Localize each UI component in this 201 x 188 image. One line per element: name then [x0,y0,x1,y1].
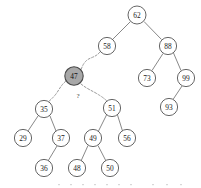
dashed-edge-47-51 [81,84,109,103]
node-circle-35[interactable] [35,100,52,117]
node-circle-29[interactable] [14,129,31,146]
node-36[interactable]: 36 [35,159,52,176]
node-51[interactable]: 51 [103,99,120,116]
node-47-highlighted[interactable]: 47 [65,67,83,85]
edge-88-73 [152,54,163,71]
tree-diagram-page: 62 58 88 73 99 93 [0,0,201,188]
nodes-group: 62 58 88 73 99 93 [14,6,194,177]
node-circle-36[interactable] [35,159,52,176]
node-35[interactable]: 35 [35,100,52,117]
edge-62-58 [113,22,131,40]
binary-search-tree-svg: 62 58 88 73 99 93 [0,0,201,188]
node-circle-50[interactable] [101,159,118,176]
node-circle-56[interactable] [118,129,135,146]
dashed-edge-47-35 [46,81,66,104]
node-circle-93[interactable] [160,98,177,115]
node-circle-99[interactable] [177,69,194,86]
node-58[interactable]: 58 [98,37,115,54]
edge-51-49 [99,115,107,131]
node-49[interactable]: 49 [84,129,101,146]
node-29[interactable]: 29 [14,129,31,146]
node-50[interactable]: 50 [101,159,118,176]
edge-35-37 [50,116,56,131]
node-37[interactable]: 37 [52,129,69,146]
dashed-edge-58-47 [81,52,100,70]
node-56[interactable]: 56 [118,129,135,146]
edge-37-36 [48,146,57,161]
edge-99-93 [173,86,182,100]
node-62[interactable]: 62 [128,6,146,24]
edge-49-48 [81,146,88,162]
page-artifact-specks [58,184,182,185]
node-circle-51[interactable] [103,99,120,116]
node-circle-62[interactable] [128,6,146,24]
edge-35-29 [28,116,38,131]
node-48[interactable]: 48 [68,159,85,176]
edge-51-56 [118,115,123,131]
annotations-group: ? [76,92,79,100]
edge-62-88 [144,22,162,40]
node-99[interactable]: 99 [177,69,194,86]
node-circle-58[interactable] [98,37,115,54]
node-circle-48[interactable] [68,159,85,176]
node-circle-88[interactable] [159,37,176,54]
node-93[interactable]: 93 [160,98,177,115]
edge-49-50 [98,146,106,162]
node-88[interactable]: 88 [159,37,176,54]
node-circle-73[interactable] [138,69,155,86]
node-circle-37[interactable] [52,129,69,146]
question-mark-annotation: ? [76,92,79,100]
node-circle-47[interactable] [65,67,83,85]
node-circle-49[interactable] [84,129,101,146]
edge-88-99 [174,53,182,71]
node-73[interactable]: 73 [138,69,155,86]
